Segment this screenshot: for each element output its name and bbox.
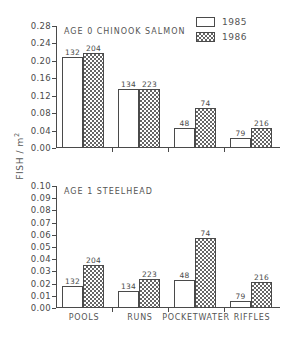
y-tick-label: 0.28 <box>31 21 51 31</box>
y-tick-mark <box>52 259 56 260</box>
y-tick-label: 0.04 <box>31 254 51 264</box>
y-tick-label: 0.00 <box>31 143 51 153</box>
bar-value-label: 79 <box>231 129 250 138</box>
bar-value-label: 48 <box>175 271 194 280</box>
bar-riffles-1986: 216 <box>251 128 272 148</box>
y-tick-mark <box>52 308 56 309</box>
bar-pools-1985: 132 <box>62 286 83 308</box>
x-category-label-pools: POOLS <box>69 313 99 322</box>
bar-riffles-1985: 79 <box>230 138 251 148</box>
y-tick-mark <box>52 296 56 297</box>
y-tick-mark <box>52 131 56 132</box>
y-tick-label: 0.02 <box>31 279 51 289</box>
bar-value-label: 132 <box>63 48 82 57</box>
panel-age-1-steelhead: AGE 1 STEELHEAD 132204134223487479216 0.… <box>56 186 280 308</box>
y-tick-label: 0.24 <box>31 38 51 48</box>
y-tick-label: 0.08 <box>31 108 51 118</box>
bar-value-label: 134 <box>119 282 138 291</box>
x-axis-tick-mark <box>112 308 113 312</box>
y-tick-label: 0.04 <box>31 126 51 136</box>
bar-value-label: 48 <box>175 119 194 128</box>
y-tick-label: 0.16 <box>31 73 51 83</box>
y-tick-mark <box>52 26 56 27</box>
bar-runs-1986: 223 <box>139 279 160 308</box>
legend-label-1985: 1985 <box>222 17 247 27</box>
bar-value-label: 216 <box>252 273 271 282</box>
bar-value-label: 74 <box>196 229 215 238</box>
bar-value-label: 223 <box>140 270 159 279</box>
y-tick-label: 0.07 <box>31 218 51 228</box>
y-axis-label-exponent: 2 <box>13 132 21 137</box>
bar-pocketwater-1985: 48 <box>174 280 195 308</box>
bar-runs-1986: 223 <box>139 89 160 148</box>
y-tick-mark <box>52 198 56 199</box>
y-tick-mark <box>52 61 56 62</box>
x-axis-tick-mark <box>224 148 225 152</box>
bar-value-label: 223 <box>140 80 159 89</box>
bar-group-top: 132204134223487479216 <box>56 26 280 148</box>
y-tick-mark <box>52 186 56 187</box>
y-tick-label: 0.08 <box>31 205 51 215</box>
x-axis-tick-mark <box>168 308 169 312</box>
y-tick-mark <box>52 148 56 149</box>
y-tick-mark <box>52 284 56 285</box>
y-tick-label: 0.01 <box>31 291 51 301</box>
bar-pools-1986: 204 <box>83 53 104 148</box>
y-tick-label: 0.03 <box>31 266 51 276</box>
y-axis-label-text: FISH / m <box>15 137 25 180</box>
y-tick-label: 0.10 <box>31 181 51 191</box>
y-tick-label: 0.20 <box>31 56 51 66</box>
bar-runs-1985: 134 <box>118 89 139 148</box>
panel-age-0-chinook-salmon: AGE 0 CHINOOK SALMON 1322041342234874792… <box>56 26 280 148</box>
x-axis-tick-mark <box>168 148 169 152</box>
y-tick-mark <box>52 247 56 248</box>
y-tick-label: 0.00 <box>31 303 51 313</box>
fish-density-bar-chart-figure: FISH / m2 1985 1986 AGE 0 CHINOOK SALMON… <box>0 0 286 341</box>
y-tick-mark <box>52 271 56 272</box>
bar-value-label: 79 <box>231 292 250 301</box>
x-category-label-runs: RUNS <box>127 313 152 322</box>
x-category-label-pocketwater: POCKETWATER <box>162 313 229 322</box>
y-tick-mark <box>52 113 56 114</box>
bar-value-label: 204 <box>84 44 103 53</box>
y-tick-mark <box>52 210 56 211</box>
legend-swatch-1985-icon <box>196 17 215 27</box>
y-tick-label: 0.06 <box>31 230 51 240</box>
y-tick-mark <box>52 235 56 236</box>
y-tick-label: 0.05 <box>31 242 51 252</box>
bar-riffles-1985: 79 <box>230 301 251 308</box>
x-axis-tick-mark <box>112 148 113 152</box>
y-tick-label: 0.12 <box>31 91 51 101</box>
bar-pocketwater-1986: 74 <box>195 108 216 148</box>
y-tick-mark <box>52 223 56 224</box>
bar-pocketwater-1986: 74 <box>195 238 216 308</box>
y-tick-mark <box>52 43 56 44</box>
y-tick-label: 0.09 <box>31 193 51 203</box>
bar-value-label: 132 <box>63 277 82 286</box>
x-category-label-riffles: RIFFLES <box>234 313 271 322</box>
bar-group-bottom: 132204134223487479216 <box>56 186 280 308</box>
y-tick-mark <box>52 78 56 79</box>
bar-value-label: 204 <box>84 256 103 265</box>
bar-value-label: 134 <box>119 80 138 89</box>
y-axis-label: FISH / m2 <box>13 101 25 211</box>
bar-value-label: 216 <box>252 119 271 128</box>
bar-pools-1986: 204 <box>83 265 104 308</box>
bar-pocketwater-1985: 48 <box>174 128 195 148</box>
x-axis-tick-mark <box>224 308 225 312</box>
bar-riffles-1986: 216 <box>251 282 272 308</box>
bar-value-label: 74 <box>196 99 215 108</box>
bar-pools-1985: 132 <box>62 57 83 148</box>
bar-runs-1985: 134 <box>118 291 139 308</box>
y-tick-mark <box>52 96 56 97</box>
